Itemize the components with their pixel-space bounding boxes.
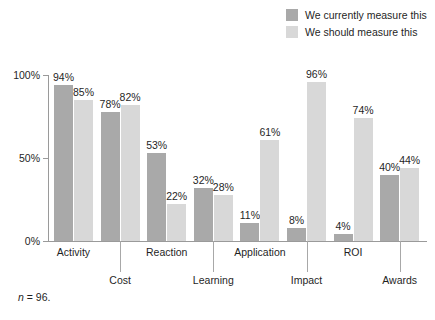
y-tick-mark [43, 75, 48, 76]
y-tick-mark [43, 241, 48, 242]
x-axis-leader-line [400, 241, 401, 272]
bar-chart-plot-area: 100%50%0% 94%85%78%82%53%22%32%28%11%61%… [0, 0, 435, 320]
bar-value-label: 96% [306, 68, 327, 80]
y-tick-label: 0% [0, 235, 40, 247]
x-axis-label-awards: Awards [382, 274, 417, 286]
bar[interactable]: 82% [121, 105, 140, 241]
x-axis-label-reaction: Reaction [146, 246, 187, 258]
bar-value-label: 85% [73, 86, 94, 98]
x-axis-label-impact: Impact [291, 274, 323, 286]
bar-value-label: 44% [399, 154, 420, 166]
bar[interactable]: 53% [147, 153, 166, 241]
bar-value-label: 8% [289, 214, 304, 226]
footnote-sample-size: n = 96. [18, 291, 50, 303]
bar-value-label: 22% [166, 190, 187, 202]
bar-group: 11%61% [240, 75, 279, 241]
x-axis-line [48, 241, 427, 242]
bar-value-label: 61% [259, 126, 280, 138]
bar[interactable]: 11% [240, 223, 259, 241]
bar[interactable]: 8% [287, 228, 306, 241]
bar[interactable]: 4% [334, 234, 353, 241]
y-axis-line [48, 75, 49, 241]
y-tick-label: 50% [0, 152, 40, 164]
bar-group: 8%96% [287, 75, 326, 241]
bar-value-label: 78% [100, 98, 121, 110]
bar[interactable]: 85% [74, 100, 93, 241]
y-tick-mark [43, 158, 48, 159]
x-axis-leader-line [120, 241, 121, 272]
bar-group: 4%74% [334, 75, 373, 241]
bar-value-label: 11% [240, 209, 260, 221]
bar-group: 94%85% [54, 75, 93, 241]
y-tick-label: 100% [0, 69, 40, 81]
bar-value-label: 28% [213, 181, 234, 193]
x-axis-leader-line [307, 241, 308, 272]
x-axis-label-activity: Activity [57, 246, 90, 258]
bar-value-label: 74% [353, 104, 374, 116]
bar[interactable]: 78% [101, 112, 120, 241]
bar[interactable]: 32% [194, 188, 213, 241]
x-axis-label-cost: Cost [109, 274, 131, 286]
bar-group: 78%82% [101, 75, 140, 241]
bar-value-label: 32% [193, 174, 214, 186]
x-axis-label-application: Application [234, 246, 285, 258]
bar-value-label: 94% [53, 71, 74, 83]
bar[interactable]: 44% [400, 168, 419, 241]
bar[interactable]: 28% [214, 195, 233, 241]
bar-value-label: 40% [379, 161, 400, 173]
bar-value-label: 4% [336, 220, 351, 232]
bar[interactable]: 22% [167, 204, 186, 241]
bar-value-label: 53% [146, 139, 167, 151]
x-axis-label-learning: Learning [193, 274, 234, 286]
bar-group: 53%22% [147, 75, 186, 241]
bar[interactable]: 40% [380, 175, 399, 241]
bar-group: 32%28% [194, 75, 233, 241]
x-axis-leader-line [213, 241, 214, 272]
footnote-value: = 96. [24, 291, 51, 303]
bar-value-label: 82% [120, 91, 141, 103]
bar[interactable]: 96% [307, 82, 326, 241]
bar[interactable]: 74% [354, 118, 373, 241]
bar[interactable]: 61% [260, 140, 279, 241]
x-axis-label-roi: ROI [344, 246, 363, 258]
bar-group: 40%44% [380, 75, 419, 241]
bar[interactable]: 94% [54, 85, 73, 241]
